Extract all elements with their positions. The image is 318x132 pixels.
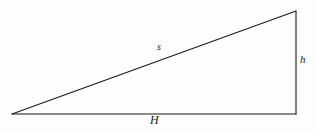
triangle-shape xyxy=(0,0,318,132)
hypotenuse-line xyxy=(12,11,296,114)
hypotenuse-label: s xyxy=(157,42,161,52)
vertical-leg-label: h xyxy=(300,54,306,65)
horizontal-leg-label: H xyxy=(150,114,159,126)
right-triangle-diagram: s h H xyxy=(0,0,318,132)
